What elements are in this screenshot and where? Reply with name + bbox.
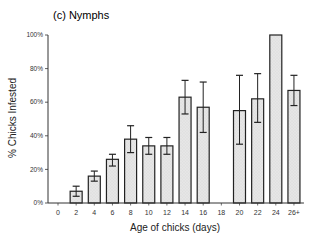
bar-chart: (c) Nymphs 0%20%40%60%80%100% 0246810121… [0, 0, 315, 245]
x-axis-label: Age of chicks (days) [130, 222, 220, 233]
x-tick-label: 12 [163, 209, 171, 216]
x-tick-label: 20 [236, 209, 244, 216]
x-tick-label: 0 [56, 209, 60, 216]
y-axis-label: % Chicks Infested [7, 78, 18, 158]
x-tick-label: 16 [199, 209, 207, 216]
x-tick-label: 8 [129, 209, 133, 216]
y-tick-label: 20% [30, 166, 43, 173]
bar-26+ [288, 90, 300, 203]
x-tick-label: 2 [74, 209, 78, 216]
x-tick-label: 4 [92, 209, 96, 216]
x-tick-label: 6 [110, 209, 114, 216]
y-tick-label: 100% [26, 31, 43, 38]
chart-title: (c) Nymphs [53, 9, 110, 21]
y-tick-label: 60% [30, 98, 43, 105]
y-axis: 0%20%40%60%80%100% [26, 31, 48, 206]
x-tick-label: 14 [181, 209, 189, 216]
x-axis: 02468101214161820222426+ [48, 203, 304, 216]
x-tick-label: 10 [145, 209, 153, 216]
bar-24 [270, 35, 282, 203]
x-tick-label: 24 [272, 209, 280, 216]
y-tick-label: 0% [34, 199, 44, 206]
y-tick-label: 80% [30, 65, 43, 72]
x-tick-label: 26+ [288, 209, 300, 216]
x-tick-label: 18 [217, 209, 225, 216]
bars [70, 35, 300, 203]
x-tick-label: 22 [254, 209, 262, 216]
y-tick-label: 40% [30, 132, 43, 139]
